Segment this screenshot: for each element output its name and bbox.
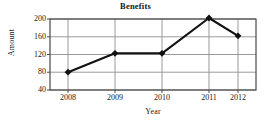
x-axis-title: Year xyxy=(50,107,256,116)
x-tick-label: 2009 xyxy=(95,93,135,102)
x-tick-label: 2010 xyxy=(142,93,182,102)
line-chart: Benefits Amount 200 160 120 80 40 xyxy=(0,0,271,125)
x-tick-label: 2008 xyxy=(48,93,88,102)
x-tick-label: 2012 xyxy=(218,93,258,102)
